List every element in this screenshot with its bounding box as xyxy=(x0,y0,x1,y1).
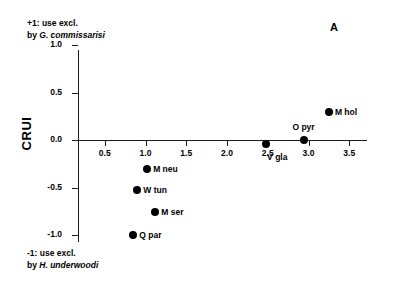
y-tick-label: 1.0 xyxy=(28,39,62,49)
annotation-bottom-line1: -1: use excl. xyxy=(27,248,98,260)
data-point xyxy=(325,108,333,116)
annotation-top-left: +1: use excl. by G. commissarisi xyxy=(27,18,105,41)
x-tick-mark xyxy=(309,140,310,146)
x-tick-label: 2.0 xyxy=(212,148,242,158)
data-point xyxy=(133,186,141,194)
data-point xyxy=(143,165,151,173)
x-axis-line xyxy=(78,140,367,141)
y-tick-mark xyxy=(72,93,78,94)
y-tick-label: -1.0 xyxy=(28,229,62,239)
y-tick-mark xyxy=(72,235,78,236)
data-point-label: V gla xyxy=(267,152,287,162)
x-tick-label: 0.5 xyxy=(90,148,120,158)
annotation-bottom-left: -1: use excl. by H. underwoodi xyxy=(27,248,98,271)
y-tick-mark xyxy=(72,140,78,141)
x-tick-mark xyxy=(186,140,187,146)
data-point xyxy=(262,140,270,148)
x-tick-mark xyxy=(349,140,350,146)
x-tick-label: 1.5 xyxy=(171,148,201,158)
x-tick-mark xyxy=(227,140,228,146)
data-point-label: Q par xyxy=(139,230,161,240)
y-tick-mark xyxy=(72,45,78,46)
annotation-top-prefix: by xyxy=(27,30,39,40)
y-tick-mark xyxy=(72,188,78,189)
data-point-label: O pyr xyxy=(292,122,314,132)
data-point-label: M ser xyxy=(161,207,183,217)
annotation-bottom-species: H. underwoodi xyxy=(39,260,98,270)
y-tick-label: 0.0 xyxy=(28,134,62,144)
x-tick-label: 3.0 xyxy=(294,148,324,158)
annotation-top-line1: +1: use excl. xyxy=(27,18,105,30)
data-point-label: W tun xyxy=(143,185,167,195)
data-point xyxy=(151,208,159,216)
data-point-label: M neu xyxy=(153,164,178,174)
annotation-bottom-line2: by H. underwoodi xyxy=(27,260,98,272)
y-tick-label: 0.5 xyxy=(28,87,62,97)
data-point-label: M hol xyxy=(335,107,357,117)
annotation-top-species: G. commissarisi xyxy=(39,30,105,40)
x-tick-mark xyxy=(105,140,106,146)
data-point xyxy=(129,231,137,239)
y-axis-line xyxy=(78,50,79,242)
annotation-bottom-prefix: by xyxy=(27,260,39,270)
panel-label: A xyxy=(330,21,338,33)
data-point xyxy=(300,136,308,144)
x-tick-mark xyxy=(146,140,147,146)
x-tick-label: 3.5 xyxy=(334,148,364,158)
scatter-chart: +1: use excl. by G. commissarisi -1: use… xyxy=(0,0,393,288)
y-tick-label: -0.5 xyxy=(28,182,62,192)
x-tick-label: 1.0 xyxy=(131,148,161,158)
